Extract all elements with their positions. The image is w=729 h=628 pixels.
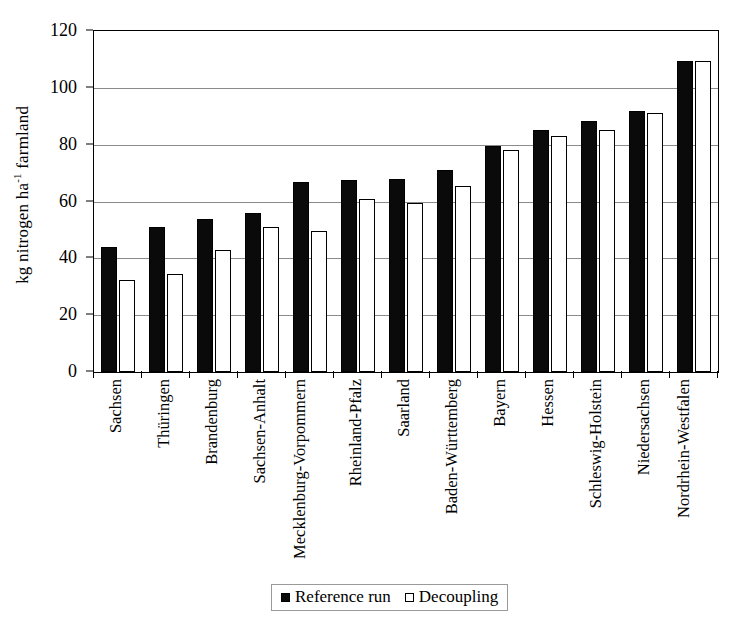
- x-tick-mark: [93, 371, 94, 378]
- x-axis-label-niedersachsen: Niedersachsen: [634, 379, 656, 564]
- x-tick-mark: [669, 371, 670, 378]
- bar-reference-run[interactable]: [149, 227, 166, 372]
- x-axis-label-baden-w-rttemberg: Baden-Württemberg: [442, 379, 464, 564]
- y-tick-mark-40: [86, 257, 93, 258]
- chart-legend: Reference runDecoupling: [271, 584, 508, 611]
- x-axis-label-sachsen: Sachsen: [106, 379, 128, 564]
- x-axis-label-schleswig-holstein: Schleswig-Holstein: [586, 379, 608, 564]
- bar-reference-run[interactable]: [437, 170, 454, 372]
- bar-group: [286, 31, 334, 372]
- bar-reference-run[interactable]: [293, 182, 310, 372]
- bar-reference-run[interactable]: [341, 180, 358, 372]
- y-tick-label-100: 100: [50, 76, 77, 97]
- x-axis-label-sachsen-anhalt: Sachsen-Anhalt: [250, 379, 272, 564]
- bar-decoupling[interactable]: [215, 250, 232, 372]
- bar-decoupling[interactable]: [695, 61, 712, 372]
- bar-decoupling[interactable]: [455, 186, 472, 372]
- x-tick-mark: [285, 371, 286, 378]
- x-axis-label-rheinland-pfalz: Rheinland-Pfalz: [346, 379, 368, 564]
- y-tick-mark-100: [86, 86, 93, 87]
- bar-group: [574, 31, 622, 372]
- legend-item[interactable]: Decoupling: [405, 587, 498, 607]
- bar-decoupling[interactable]: [359, 199, 376, 372]
- x-tick-mark: [525, 371, 526, 378]
- x-axis-label-th-ringen: Thüringen: [154, 379, 176, 564]
- bar-reference-run[interactable]: [389, 179, 406, 372]
- bar-reference-run[interactable]: [197, 219, 214, 372]
- y-tick-mark-0: [86, 371, 93, 372]
- legend-label: Reference run: [295, 587, 391, 607]
- y-tick-mark-80: [86, 143, 93, 144]
- bar-reference-run[interactable]: [533, 130, 550, 372]
- bar-reference-run[interactable]: [581, 121, 598, 372]
- bar-group: [142, 31, 190, 372]
- x-axis-label-saarland: Saarland: [394, 379, 416, 564]
- y-tick-label-40: 40: [59, 247, 77, 268]
- bar-decoupling[interactable]: [263, 227, 280, 372]
- x-tick-mark: [429, 371, 430, 378]
- bar-decoupling[interactable]: [599, 130, 616, 372]
- x-tick-mark: [237, 371, 238, 378]
- bar-reference-run[interactable]: [245, 213, 262, 372]
- x-axis-ticks: [93, 371, 719, 379]
- legend-label: Decoupling: [419, 587, 498, 607]
- bar-decoupling[interactable]: [503, 150, 520, 372]
- bar-reference-run[interactable]: [629, 111, 646, 372]
- y-tick-mark-60: [86, 200, 93, 201]
- y-tick-label-20: 20: [59, 304, 77, 325]
- x-axis-labels: SachsenThüringenBrandenburgSachsen-Anhal…: [93, 379, 719, 564]
- bar-decoupling[interactable]: [119, 280, 136, 372]
- bar-group: [334, 31, 382, 372]
- y-tick-label-120: 120: [50, 20, 77, 41]
- bar-group: [382, 31, 430, 372]
- bar-group: [238, 31, 286, 372]
- y-tick-mark-120: [86, 30, 93, 31]
- x-tick-mark: [477, 371, 478, 378]
- x-tick-mark: [381, 371, 382, 378]
- bar-group: [670, 31, 718, 372]
- x-axis-label-hessen: Hessen: [538, 379, 560, 564]
- bar-decoupling[interactable]: [551, 136, 568, 372]
- bars-layer: [94, 31, 718, 372]
- x-tick-mark: [717, 371, 718, 378]
- x-axis-label-mecklenburg-vorpommern: Mecklenburg-​Vorpommern: [290, 379, 330, 564]
- bar-group: [478, 31, 526, 372]
- legend-swatch-dec: [405, 593, 414, 602]
- legend-item[interactable]: Reference run: [281, 587, 391, 607]
- bar-decoupling[interactable]: [167, 274, 184, 372]
- bar-reference-run[interactable]: [101, 247, 118, 372]
- x-tick-mark: [573, 371, 574, 378]
- x-axis-label-brandenburg: Brandenburg: [202, 379, 224, 564]
- bar-group: [94, 31, 142, 372]
- y-tick-label-60: 60: [59, 190, 77, 211]
- x-tick-mark: [333, 371, 334, 378]
- x-axis-label-bayern: Bayern: [490, 379, 512, 564]
- bar-group: [190, 31, 238, 372]
- x-tick-mark: [621, 371, 622, 378]
- y-tick-mark-20: [86, 314, 93, 315]
- bar-reference-run[interactable]: [677, 61, 694, 372]
- x-tick-mark: [189, 371, 190, 378]
- legend-swatch-ref: [281, 593, 290, 602]
- plot-area: [93, 30, 719, 373]
- bar-decoupling[interactable]: [407, 203, 424, 372]
- bar-decoupling[interactable]: [311, 231, 328, 372]
- bar-reference-run[interactable]: [485, 146, 502, 372]
- y-tick-label-80: 80: [59, 133, 77, 154]
- x-axis-label-nordrhein-westfalen: Nordrhein-​Westfalen: [674, 379, 714, 564]
- bar-decoupling[interactable]: [647, 113, 664, 372]
- bar-group: [430, 31, 478, 372]
- bar-group: [526, 31, 574, 372]
- bar-group: [622, 31, 670, 372]
- y-tick-label-0: 0: [68, 361, 77, 382]
- x-tick-mark: [141, 371, 142, 378]
- y-axis-ticks: 020406080100120: [0, 0, 93, 401]
